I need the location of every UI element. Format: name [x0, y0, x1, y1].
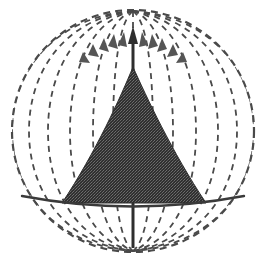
meridian-arrowhead [88, 44, 99, 57]
meridian-arrowhead [99, 38, 109, 52]
polar-axis-arrowhead [128, 26, 138, 44]
sphere-diagram [0, 0, 271, 263]
shaded-region-group [62, 67, 206, 203]
meridian-arrowhead [139, 32, 148, 47]
meridian-arrowhead [118, 32, 127, 47]
figure-root: Spherical vector field converging to the… [0, 0, 271, 263]
meridian-arrowhead [167, 44, 178, 57]
meridian-arrowhead [157, 38, 167, 52]
spherical-triangle [62, 67, 206, 203]
